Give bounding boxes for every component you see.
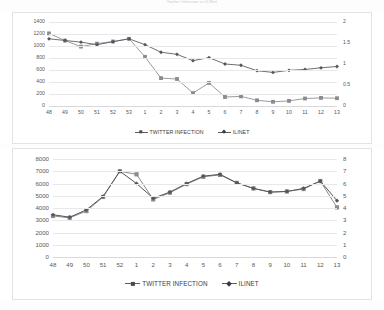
x-tick-label: 5	[202, 262, 205, 268]
data-point-marker	[191, 59, 195, 63]
x-tick-label: 49	[62, 110, 68, 115]
x-tick-label: 13	[334, 262, 341, 268]
y-tick-label-right: 4	[343, 205, 346, 211]
data-point-marker	[223, 62, 227, 66]
gridline	[53, 171, 337, 172]
gridline	[53, 220, 337, 221]
data-point-marker	[239, 63, 243, 67]
x-tick-label: 4	[192, 110, 195, 115]
x-tick-label: 3	[168, 262, 171, 268]
y-tick-label-left: 0	[13, 254, 49, 260]
x-tick-label: 6	[218, 262, 221, 268]
y-tick-label-right: 1	[343, 242, 346, 248]
y-tick-label-left: 600	[13, 67, 45, 72]
legend-item-twitter-infection[interactable]: TWITTER INFECTION	[125, 280, 207, 287]
legend-label: ILINET	[233, 129, 250, 135]
y-tick-label-right: 7	[343, 168, 346, 174]
y-tick-label-right: 3	[343, 217, 346, 223]
x-tick-label: 48	[46, 110, 52, 115]
y-tick-label-left: 200	[13, 91, 45, 96]
y-tick-label-right: 6	[343, 181, 346, 187]
y-tick-label-left: 8000	[13, 156, 49, 162]
x-tick-label: 7	[235, 262, 238, 268]
x-tick-label: 12	[318, 110, 324, 115]
x-tick-label: 7	[240, 110, 243, 115]
legend-item-ilinet[interactable]: ILINET	[222, 280, 259, 287]
x-tick-label: 53	[126, 110, 132, 115]
x-tick-label: 2	[160, 110, 163, 115]
y-tick-label-left: 1000	[13, 242, 49, 248]
x-tick-label: 50	[78, 110, 84, 115]
x-tick-label: 8	[256, 110, 259, 115]
x-tick-label: 8	[252, 262, 255, 268]
y-tick-label-left: 1400	[13, 19, 45, 24]
y-tick-label-left: 7000	[13, 168, 49, 174]
gridline	[49, 70, 337, 71]
legend-label: TWITTER INFECTION	[150, 129, 204, 135]
legend-item-ilinet[interactable]: ILINET	[218, 129, 250, 135]
gridline	[53, 184, 337, 185]
x-tick-label: 48	[50, 262, 57, 268]
square-marker-icon	[125, 283, 140, 284]
data-point-marker	[271, 100, 275, 104]
x-tick-label: 9	[272, 110, 275, 115]
x-tick-label: 3	[176, 110, 179, 115]
y-tick-label-left: 5000	[13, 193, 49, 199]
data-point-marker	[303, 97, 307, 101]
gridline	[49, 46, 337, 47]
y-tick-label-left: 800	[13, 55, 45, 60]
x-tick-label: 52	[116, 262, 123, 268]
chart-panel-top: 0200400600800100012001400 00.511.52 4849…	[0, 12, 384, 144]
y-tick-label-right: 0	[343, 103, 346, 108]
x-tick-label: 1	[144, 110, 147, 115]
y-tick-label-left: 1200	[13, 31, 45, 36]
data-point-marker	[175, 52, 179, 56]
data-point-marker	[239, 95, 243, 99]
chart-page: Twitter Infection vs ILINet 020040060080…	[0, 0, 384, 310]
y-tick-label-left: 4000	[13, 205, 49, 211]
x-tick-label: 11	[302, 110, 307, 115]
data-point-marker	[134, 172, 138, 176]
gridline	[49, 82, 337, 83]
data-point-marker	[271, 71, 275, 75]
gridline	[49, 34, 337, 35]
legend-item-twitter-infection[interactable]: TWITTER INFECTION	[135, 129, 204, 135]
gridline	[53, 233, 337, 234]
x-tick-label: 51	[100, 262, 107, 268]
y-tick-label-left: 3000	[13, 217, 49, 223]
x-tick-label: 1	[135, 262, 138, 268]
plot-area-bottom	[53, 159, 337, 257]
gridline	[49, 58, 337, 59]
series-line-2	[53, 171, 337, 217]
y-tick-label-left: 400	[13, 79, 45, 84]
x-tick-label: 6	[224, 110, 227, 115]
data-point-marker	[223, 95, 227, 99]
x-tick-label: 12	[317, 262, 324, 268]
legend-bottom: TWITTER INFECTION ILINET	[13, 280, 371, 287]
y-tick-label-right: 2	[343, 19, 346, 24]
x-tick-label: 5	[208, 110, 211, 115]
x-tick-label: 49	[66, 262, 73, 268]
x-tick-label: 50	[83, 262, 90, 268]
data-point-marker	[175, 77, 179, 81]
plot-area-top	[49, 22, 337, 106]
x-tick-label: 9	[268, 262, 271, 268]
y-tick-label-right: 2	[343, 230, 346, 236]
gridline	[49, 106, 337, 107]
x-tick-label: 2	[152, 262, 155, 268]
gridline	[53, 257, 337, 258]
chart-panel-bottom: 010002000300040005000600070008000 012345…	[0, 148, 384, 300]
gridline	[49, 22, 337, 23]
data-point-marker	[159, 76, 163, 80]
x-tick-label: 13	[334, 110, 340, 115]
legend-label: ILINET	[239, 280, 259, 287]
y-tick-label-right: 8	[343, 156, 346, 162]
legend-top: TWITTER INFECTION ILINET	[13, 129, 371, 135]
data-point-marker	[335, 65, 339, 69]
x-tick-label: 52	[110, 110, 116, 115]
data-point-marker	[319, 96, 323, 100]
square-marker-icon	[135, 132, 148, 133]
data-point-marker	[255, 98, 259, 102]
series-line-2	[49, 39, 337, 73]
y-tick-label-right: 5	[343, 193, 346, 199]
